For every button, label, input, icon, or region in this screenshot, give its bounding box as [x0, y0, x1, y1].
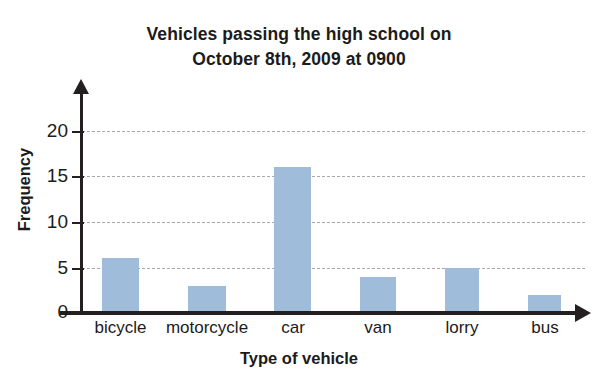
gridline-20 [82, 131, 585, 132]
y-tickmark-0 [72, 312, 84, 314]
bar-chart: Vehicles passing the high school on Octo… [0, 0, 598, 379]
x-axis-title: Type of vehicle [0, 349, 598, 368]
y-axis-line [80, 92, 83, 315]
y-tickmark-15 [72, 176, 84, 178]
y-tickmark-10 [72, 222, 84, 224]
y-axis-arrow-icon [73, 79, 89, 94]
gridline-15 [82, 176, 585, 177]
gridline-5 [82, 268, 585, 269]
bar-bicycle [102, 258, 139, 313]
x-tick-label-motorcycle: motorcycle [152, 318, 262, 338]
bar-lorry [445, 268, 479, 313]
x-tick-label-lorry: lorry [417, 318, 507, 338]
x-tick-label-van: van [333, 318, 423, 338]
y-tickmark-20 [72, 131, 84, 133]
bar-car [274, 167, 311, 313]
gridline-10 [82, 222, 585, 223]
bar-motorcycle [188, 286, 226, 313]
plot-area: 20 15 10 5 0 bicycle motorcycle car van … [0, 0, 598, 379]
y-tick-label-0: 0 [24, 301, 68, 323]
x-tick-label-bus: bus [500, 318, 590, 338]
x-tick-label-car: car [248, 318, 338, 338]
y-tickmark-5 [72, 268, 84, 270]
x-axis-line [60, 311, 578, 315]
y-axis-title: Frequency [15, 110, 34, 270]
bar-van [360, 277, 396, 313]
